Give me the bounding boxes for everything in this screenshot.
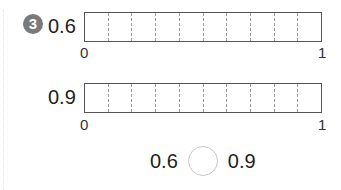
bar-cell[interactable] <box>227 13 251 41</box>
bar-cell[interactable] <box>251 84 275 112</box>
bar-cell[interactable] <box>156 13 180 41</box>
bar-cell[interactable] <box>251 13 275 41</box>
bar-cell[interactable] <box>204 13 228 41</box>
bar-cell[interactable] <box>85 13 109 41</box>
row-2-end-label: 1 <box>318 117 326 132</box>
comparison-right-value: 0.9 <box>228 150 256 173</box>
row-2-bar[interactable] <box>84 83 322 113</box>
bar-cell[interactable] <box>132 84 156 112</box>
bar-cell[interactable] <box>132 13 156 41</box>
bar-cell[interactable] <box>109 13 133 41</box>
comparison-answer-circle[interactable] <box>188 146 218 176</box>
bar-cell[interactable] <box>275 84 299 112</box>
bar-cell[interactable] <box>298 84 321 112</box>
bar-cell[interactable] <box>156 84 180 112</box>
comparison-left-value: 0.6 <box>150 150 178 173</box>
bar-cell[interactable] <box>180 84 204 112</box>
bar-cell[interactable] <box>275 13 299 41</box>
row-2-label: 0.9 <box>48 86 76 108</box>
bar-cell[interactable] <box>227 84 251 112</box>
margin-dotted-line <box>3 10 4 190</box>
row-2-start-label: 0 <box>80 117 88 132</box>
row-1-bar[interactable] <box>84 12 322 42</box>
bar-cell[interactable] <box>85 84 109 112</box>
row-1-end-label: 1 <box>318 45 326 60</box>
bar-cell[interactable] <box>204 84 228 112</box>
bar-cell[interactable] <box>109 84 133 112</box>
bar-cell[interactable] <box>180 13 204 41</box>
problem-number-badge: 3 <box>23 14 43 34</box>
bar-cell[interactable] <box>298 13 321 41</box>
row-1-start-label: 0 <box>80 45 88 60</box>
comparison-row: 0.6 0.9 <box>150 145 256 177</box>
row-1-label: 0.6 <box>48 15 76 37</box>
